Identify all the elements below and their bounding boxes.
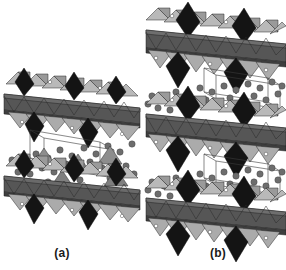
panel-b-svg: [146, 0, 286, 232]
panel-a-caption: (a): [32, 246, 92, 260]
panel-a-svg: [4, 62, 140, 230]
panel-b-structure: [146, 0, 286, 232]
panel-b-caption: (b): [188, 246, 248, 260]
crystal-structure-figure: (a): [0, 0, 286, 270]
panel-a-slab-top: [4, 68, 140, 148]
panel-a-structure: [4, 62, 140, 230]
